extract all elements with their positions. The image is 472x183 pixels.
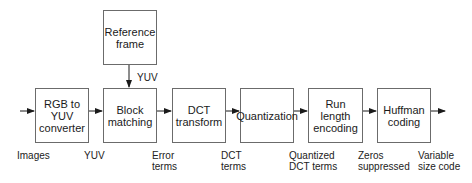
box-label: Block matching: [108, 104, 153, 128]
label-quantized-dct-terms: Quantized DCT terms: [289, 150, 337, 172]
box-dct-transform: DCT transform: [172, 88, 226, 143]
label-error-terms: Error terms: [152, 150, 177, 172]
box-block-matching: Block matching: [103, 88, 157, 143]
box-label: Quantization: [236, 110, 298, 122]
label-images: Images: [17, 150, 50, 161]
box-label: Reference frame: [105, 26, 156, 50]
box-label: DCT transform: [176, 104, 222, 128]
label-yuv: YUV: [84, 150, 105, 161]
edge-label-yuv: YUV: [137, 72, 158, 83]
box-rgb-to-yuv-converter: RGB to YUV converter: [35, 88, 89, 143]
label-variable-size-code: Variable size code: [418, 150, 460, 172]
label-zeros-suppressed: Zeros suppressed: [358, 150, 410, 172]
label-dct-terms: DCT terms: [221, 150, 246, 172]
box-quantization: Quantization: [240, 88, 294, 143]
box-huffman-coding: Huffman coding: [377, 88, 431, 143]
box-reference-frame: Reference frame: [103, 10, 157, 65]
box-label: Huffman coding: [383, 104, 424, 128]
box-label: Run length encoding: [313, 98, 358, 134]
box-label: RGB to YUV converter: [39, 98, 85, 134]
box-run-length-encoding: Run length encoding: [308, 88, 363, 143]
